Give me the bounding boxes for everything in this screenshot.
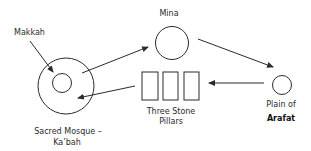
three-stone-pillars-node xyxy=(142,72,199,100)
mosque-to-mina-arrow xyxy=(82,47,148,73)
pillar-2 xyxy=(163,72,178,100)
arafat-label-line2: Arafat xyxy=(267,114,295,124)
pillars-label-line2: Pillars xyxy=(159,117,183,127)
pillar-3 xyxy=(184,72,199,100)
makkah-pointer-arrow xyxy=(30,41,53,72)
sacred-mosque-label-line1: Sacred Mosque – xyxy=(34,127,102,137)
kabah-inner-circle xyxy=(53,74,72,93)
mina-label: Mina xyxy=(159,9,178,19)
mina-to-arafat-arrow xyxy=(198,39,273,67)
pillars-label-line1: Three Stone xyxy=(147,107,196,117)
makkah-label: Makkah xyxy=(14,28,45,38)
arafat-label-line1: Plain of xyxy=(266,100,296,110)
sacred-mosque-label-line2: Ka’bah xyxy=(53,138,81,148)
mina-circle xyxy=(156,27,189,60)
sacred-mosque-node xyxy=(38,58,94,114)
arafat-circle xyxy=(273,76,292,95)
sacred-mosque-outer-circle xyxy=(38,58,94,114)
pillar-1 xyxy=(142,72,158,100)
pillars-to-mosque-arrow xyxy=(78,86,135,98)
